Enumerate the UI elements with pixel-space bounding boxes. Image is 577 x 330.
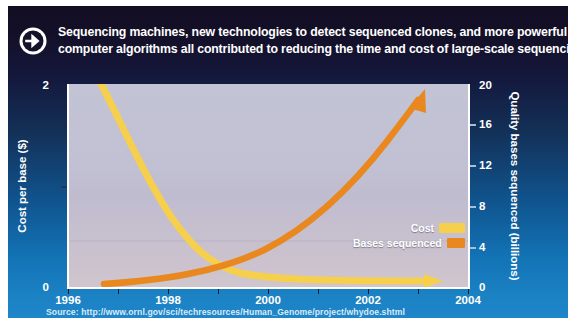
source-text: Source: http://www.ornl.gov/sci/techreso… [46, 307, 405, 317]
arrow-right-circle-icon [18, 26, 48, 56]
y-axis-left-title: Cost per base ($) [16, 139, 28, 232]
legend-label-bases: Bases sequenced [353, 237, 442, 249]
x-tick-label-1998: 1998 [155, 294, 181, 306]
y2-tick-label-16: 16 [479, 118, 492, 130]
y2-tick-label-20: 20 [479, 79, 492, 91]
figure-panel: Sequencing machines, new technologies to… [8, 6, 568, 318]
chart: 1996 1998 2000 2002 2004 2 0 20 16 12 8 … [8, 72, 568, 318]
legend-item-cost: Cost [353, 222, 465, 234]
x-tick-1997 [118, 289, 119, 294]
x-tick-label-2000: 2000 [255, 294, 281, 306]
y-tick-label-0: 0 [43, 281, 49, 293]
callout-line-2: computer algorithms all contributed to r… [58, 41, 558, 58]
y-axis-right-title: Quality bases sequenced (billions) [509, 91, 521, 280]
x-tick-label-1996: 1996 [55, 294, 81, 306]
y2-tick-12 [470, 165, 476, 167]
y2-tick-label-12: 12 [479, 159, 492, 171]
y-axis-left-line [67, 84, 69, 289]
figure-root: Sequencing machines, new technologies to… [0, 0, 577, 330]
plot-inner [68, 84, 468, 288]
y-tick-label-2: 2 [43, 79, 49, 91]
series-cost-line [99, 84, 443, 288]
y2-tick-label-0: 0 [479, 281, 485, 293]
legend-swatch-bases [447, 238, 465, 248]
y2-tick-8 [470, 206, 476, 208]
chart-legend: Cost Bases sequenced [353, 222, 465, 252]
callout-banner: Sequencing machines, new technologies to… [8, 6, 568, 72]
y-tick-left-1 [61, 186, 67, 188]
legend-swatch-cost [439, 223, 465, 233]
y2-tick-label-4: 4 [479, 241, 485, 253]
callout-line-1: Sequencing machines, new technologies to… [58, 24, 558, 41]
y2-tick-label-8: 8 [479, 200, 485, 212]
x-tick-2003 [418, 289, 419, 294]
callout-text: Sequencing machines, new technologies to… [58, 24, 558, 57]
x-tick-label-2002: 2002 [355, 294, 381, 306]
y2-tick-16 [470, 124, 476, 126]
y-axis-right-line [468, 84, 470, 289]
x-tick-label-2004: 2004 [455, 294, 481, 306]
legend-label-cost: Cost [411, 222, 434, 234]
plot-area [68, 84, 468, 288]
legend-item-bases: Bases sequenced [353, 237, 465, 249]
x-tick-2001 [318, 289, 319, 294]
y2-tick-4 [470, 247, 476, 249]
x-tick-1999 [218, 289, 219, 294]
